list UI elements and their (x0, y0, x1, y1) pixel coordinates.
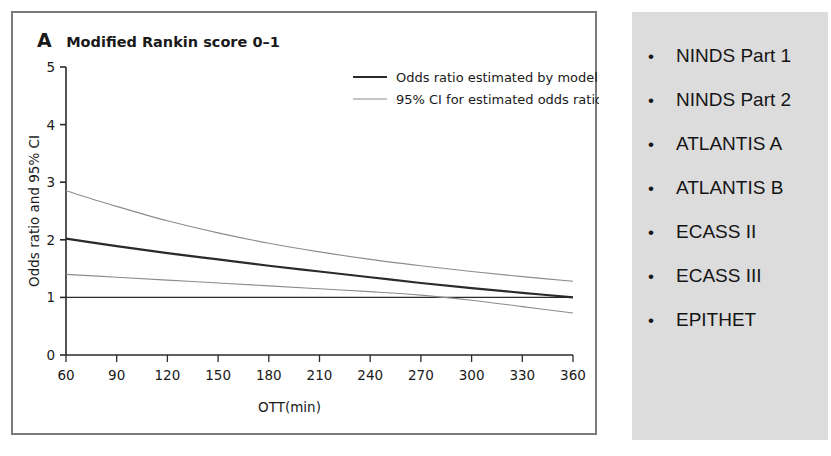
ci-upper-curve (66, 191, 573, 281)
y-tick-label: 3 (46, 174, 55, 190)
trial-label: ECASS II (676, 221, 756, 243)
x-tick-label: 150 (205, 367, 231, 383)
trials-panel: •NINDS Part 1•NINDS Part 2•ATLANTIS A•AT… (632, 12, 828, 440)
x-tick-label: 330 (509, 367, 535, 383)
odds-ratio-chart: 0123456090120150180210240270300330360 Od… (13, 13, 599, 437)
bullet-icon: • (648, 48, 662, 65)
trial-list-item: •NINDS Part 2 (632, 78, 828, 122)
y-tick-label: 2 (46, 232, 55, 248)
trial-list-item: •ECASS III (632, 254, 828, 298)
chart-tick-labels: 0123456090120150180210240270300330360 (46, 59, 585, 383)
bullet-icon: • (648, 180, 662, 197)
chart-axes (60, 67, 573, 362)
trial-list-item: •ATLANTIS B (632, 166, 828, 210)
x-tick-label: 300 (459, 367, 485, 383)
trial-list-item: •ATLANTIS A (632, 122, 828, 166)
trial-label: NINDS Part 1 (676, 45, 791, 67)
y-tick-label: 5 (46, 59, 55, 75)
x-tick-label: 270 (408, 367, 434, 383)
x-tick-label: 180 (256, 367, 282, 383)
bullet-icon: • (648, 136, 662, 153)
bullet-icon: • (648, 268, 662, 285)
trial-label: ATLANTIS B (676, 177, 783, 199)
x-tick-label: 60 (57, 367, 74, 383)
x-tick-label: 90 (108, 367, 125, 383)
figure-panel: A Modified Rankin score 0–1 012345609012… (11, 11, 597, 435)
bullet-icon: • (648, 312, 662, 329)
y-tick-label: 1 (46, 289, 55, 305)
x-tick-label: 210 (307, 367, 333, 383)
ci-lower-curve (66, 274, 573, 313)
x-tick-label: 240 (357, 367, 383, 383)
trials-list: •NINDS Part 1•NINDS Part 2•ATLANTIS A•AT… (632, 12, 828, 342)
x-tick-label: 120 (155, 367, 181, 383)
trial-label: ECASS III (676, 265, 762, 287)
x-axis-title: OTT(min) (258, 399, 321, 415)
y-tick-label: 4 (46, 117, 55, 133)
legend-label: 95% CI for estimated odds ratio (396, 92, 599, 107)
trial-label: EPITHET (676, 309, 756, 331)
x-tick-label: 360 (560, 367, 586, 383)
chart-curves (66, 191, 573, 313)
legend-label: Odds ratio estimated by model (396, 70, 598, 85)
y-axis-title: Odds ratio and 95% CI (26, 135, 42, 287)
trial-list-item: •NINDS Part 1 (632, 34, 828, 78)
trial-label: NINDS Part 2 (676, 89, 791, 111)
trial-list-item: •EPITHET (632, 298, 828, 342)
y-tick-label: 0 (46, 347, 55, 363)
bullet-icon: • (648, 92, 662, 109)
chart-legend: Odds ratio estimated by model95% CI for … (353, 70, 599, 107)
trial-list-item: •ECASS II (632, 210, 828, 254)
trial-label: ATLANTIS A (676, 133, 782, 155)
bullet-icon: • (648, 224, 662, 241)
